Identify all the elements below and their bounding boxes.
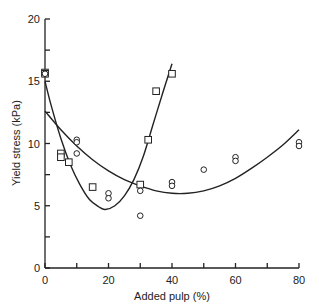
circle-marker: [74, 151, 80, 157]
square-marker: [153, 88, 160, 95]
axes: [45, 19, 299, 268]
y-tick-label: 15: [28, 75, 40, 87]
tick-labels: 05101520020406080: [28, 13, 305, 286]
x-tick-label: 60: [229, 274, 241, 286]
fit-curve-squares: [45, 64, 172, 210]
x-axis-label: Added pulp (%): [134, 290, 210, 302]
x-tick-label: 0: [42, 274, 48, 286]
circle-marker: [106, 195, 112, 201]
circle-marker: [169, 183, 175, 189]
y-tick-label: 20: [28, 13, 40, 25]
y-axis-label: Yield stress (kPa): [10, 100, 22, 186]
square-marker: [66, 159, 73, 166]
scatter-chart: 05101520020406080 Added pulp (%) Yield s…: [0, 0, 319, 308]
square-marker: [58, 154, 65, 161]
circle-marker: [201, 167, 207, 173]
y-tick-label: 0: [34, 262, 40, 274]
x-tick-label: 20: [102, 274, 114, 286]
x-tick-label: 40: [166, 274, 178, 286]
circle-marker: [42, 71, 48, 77]
y-tick-label: 5: [34, 200, 40, 212]
square-marker: [137, 181, 144, 188]
circle-marker: [137, 188, 143, 194]
circle-marker: [137, 213, 143, 219]
x-tick-label: 80: [293, 274, 305, 286]
square-marker: [89, 184, 96, 191]
square-marker: [145, 136, 152, 143]
y-tick-label: 10: [28, 138, 40, 150]
data-points: [42, 69, 302, 218]
circle-marker: [74, 139, 80, 145]
circle-marker: [233, 158, 239, 164]
circle-marker: [296, 143, 302, 149]
square-marker: [169, 70, 176, 77]
